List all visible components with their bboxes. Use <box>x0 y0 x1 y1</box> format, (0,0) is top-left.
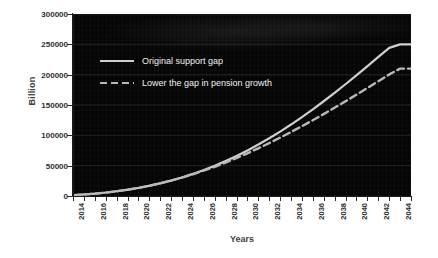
y-tick-label: 200000 <box>22 70 68 79</box>
x-tickmark <box>204 197 205 201</box>
x-tick-label: 2022 <box>164 203 173 220</box>
x-tickmark <box>182 197 183 201</box>
x-tick-label: 2020 <box>142 203 151 220</box>
x-tick-label: 2014 <box>77 203 86 220</box>
x-tickmark <box>73 197 74 201</box>
legend-label: Original support gap <box>142 56 223 66</box>
x-tickmark <box>356 197 357 201</box>
x-tickmark <box>291 197 292 201</box>
x-tickmark <box>247 197 248 201</box>
x-tick-label: 2036 <box>317 203 326 220</box>
x-tick-label: 2030 <box>251 203 260 220</box>
x-tickmark <box>215 197 216 201</box>
x-tickmark <box>280 197 281 201</box>
x-tickmark <box>237 197 238 201</box>
x-tickmark <box>171 197 172 201</box>
x-tickmark <box>400 197 401 201</box>
x-tickmark <box>335 197 336 201</box>
x-tickmark <box>193 197 194 201</box>
y-tickmark <box>67 14 73 15</box>
x-tick-label: 2026 <box>208 203 217 220</box>
y-tickmark <box>67 135 73 136</box>
x-tickmark <box>84 197 85 201</box>
x-tickmark <box>149 197 150 201</box>
x-tickmark <box>128 197 129 201</box>
x-tickmark <box>378 197 379 201</box>
chart-figure: Billion 05000010000015000020000025000030… <box>0 0 438 258</box>
legend-item: Lower the gap in pension growth <box>100 72 272 94</box>
x-tick-label: 2018 <box>121 203 130 220</box>
y-tickmark <box>67 75 73 76</box>
x-tickmark <box>106 197 107 201</box>
y-axis-tick-labels: 050000100000150000200000250000300000 <box>22 0 68 258</box>
x-tickmark <box>302 197 303 201</box>
y-tick-label: 0 <box>22 192 68 201</box>
plot-area <box>73 14 411 196</box>
x-tickmark <box>367 197 368 201</box>
x-tickmark <box>313 197 314 201</box>
series-lines <box>74 14 411 196</box>
x-tickmark <box>324 197 325 201</box>
chart-legend: Original support gapLower the gap in pen… <box>100 50 272 94</box>
x-tick-label: 2040 <box>360 203 369 220</box>
x-tickmark <box>160 197 161 201</box>
x-tickmark <box>258 197 259 201</box>
y-tick-label: 50000 <box>22 161 68 170</box>
legend-item: Original support gap <box>100 50 272 72</box>
x-axis-line <box>72 196 412 197</box>
x-tickmark <box>411 197 412 201</box>
x-tick-label: 2024 <box>186 203 195 220</box>
x-tick-label: 2034 <box>295 203 304 220</box>
x-tick-label: 2042 <box>382 203 391 220</box>
x-tickmark <box>269 197 270 201</box>
x-tickmark <box>95 197 96 201</box>
x-tickmark <box>389 197 390 201</box>
y-tickmark <box>67 44 73 45</box>
legend-solid-line-icon <box>100 60 134 62</box>
x-tickmark <box>138 197 139 201</box>
y-tickmark <box>67 166 73 167</box>
y-tick-label: 250000 <box>22 40 68 49</box>
x-tick-label: 2038 <box>339 203 348 220</box>
y-tickmark <box>67 105 73 106</box>
x-tickmark <box>117 197 118 201</box>
x-tickmark <box>226 197 227 201</box>
x-tick-label: 2028 <box>230 203 239 220</box>
x-tick-label: 2016 <box>99 203 108 220</box>
legend-label: Lower the gap in pension growth <box>142 78 272 88</box>
legend-dashed-line-icon <box>100 82 134 84</box>
y-tick-label: 100000 <box>22 131 68 140</box>
x-tick-label: 2032 <box>273 203 282 220</box>
y-tick-label: 300000 <box>22 10 68 19</box>
y-tick-label: 150000 <box>22 101 68 110</box>
x-axis-title: Years <box>73 234 411 244</box>
x-tickmark <box>346 197 347 201</box>
x-tick-label: 2044 <box>404 203 413 220</box>
